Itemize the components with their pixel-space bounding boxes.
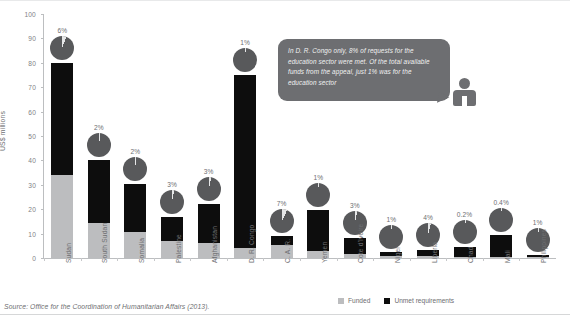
bar-segment-unmet <box>51 63 73 175</box>
bar-segment-unmet <box>88 160 110 222</box>
x-axis-label: D. R. Congo <box>248 225 255 263</box>
pie-wedge <box>160 190 184 214</box>
pie-marker <box>489 208 513 232</box>
person-icon <box>452 78 478 106</box>
legend-label: Funded <box>348 297 370 304</box>
y-tick-label: 80 <box>10 59 36 66</box>
y-tick-label: 70 <box>10 84 36 91</box>
bar-segment-unmet <box>234 75 256 248</box>
x-axis-label: Niger <box>394 246 401 263</box>
y-axis-label: US$ millions <box>0 111 6 151</box>
x-axis-label: Cote d'Ivoire <box>357 224 364 263</box>
chart-figure: US$ millions 0102030405060708090100 6%2%… <box>0 0 570 323</box>
x-axis-label: Afghanistan <box>211 226 218 263</box>
x-tick-mark <box>81 258 82 261</box>
person-arm-gap <box>462 96 467 106</box>
bar-column <box>124 14 146 258</box>
x-tick-mark <box>410 258 411 261</box>
pie-wedge <box>489 208 513 232</box>
x-axis-label: C. A. R. <box>284 239 291 263</box>
pie-percent-label: 2% <box>79 124 119 131</box>
x-tick-mark <box>227 258 228 261</box>
x-tick-mark <box>263 258 264 261</box>
y-tick-label: 50 <box>10 133 36 140</box>
y-tick-label: 60 <box>10 108 36 115</box>
x-tick-mark <box>483 258 484 261</box>
y-tick-label: 0 <box>10 255 36 262</box>
source-note: Source: Office for the Coordination of H… <box>4 303 210 310</box>
x-axis-label: Mali <box>504 250 511 263</box>
pie-percent-label: 3% <box>335 202 375 209</box>
pie-marker <box>160 190 184 214</box>
pie-percent-label: 1% <box>225 39 265 46</box>
pie-wedge <box>270 209 294 233</box>
x-axis-label: Philippines <box>540 229 547 263</box>
pie-marker <box>197 177 221 201</box>
bar-column <box>198 14 220 258</box>
chart-legend: FundedUnmet requirements <box>338 297 454 304</box>
x-tick-mark <box>337 258 338 261</box>
pie-percent-label: 1% <box>298 174 338 181</box>
x-axis-label: South Sudan <box>101 223 108 263</box>
pie-percent-label: 1% <box>371 216 411 223</box>
x-axis-label: Somalia <box>138 238 145 263</box>
pie-marker <box>233 48 257 72</box>
x-tick-mark <box>190 258 191 261</box>
x-tick-mark <box>300 258 301 261</box>
y-tick-label: 10 <box>10 230 36 237</box>
x-tick-mark <box>446 258 447 261</box>
person-head-icon <box>459 78 470 89</box>
pie-wedge <box>50 36 74 60</box>
x-axis-label: Palestine <box>175 234 182 263</box>
pie-percent-label: 3% <box>189 168 229 175</box>
top-divider <box>0 0 570 1</box>
pie-wedge <box>123 157 147 181</box>
legend-item: Funded <box>338 297 370 304</box>
callout-text: In D. R. Congo only, 8% of requests for … <box>288 46 440 88</box>
pie-marker <box>123 157 147 181</box>
pie-percent-label: 0.2% <box>445 211 485 218</box>
x-axis-label: Liberia <box>431 242 438 263</box>
y-tick-label: 100 <box>10 11 36 18</box>
pie-percent-label: 4% <box>408 214 448 221</box>
y-tick-label: 40 <box>10 157 36 164</box>
pie-marker <box>50 36 74 60</box>
x-axis-label: Sudan <box>65 243 72 263</box>
x-tick-mark <box>44 258 45 261</box>
pie-wedge <box>197 177 221 201</box>
pie-wedge <box>453 220 477 244</box>
callout-tail-icon <box>437 92 450 105</box>
legend-item: Unmet requirements <box>384 297 454 304</box>
legend-label: Unmet requirements <box>394 297 454 304</box>
y-tick-label: 30 <box>10 181 36 188</box>
pie-percent-label: 2% <box>115 148 155 155</box>
bar-segment-unmet <box>124 184 146 233</box>
pie-marker <box>270 209 294 233</box>
bottom-divider <box>0 314 570 315</box>
pie-percent-label: 7% <box>262 200 302 207</box>
x-tick-mark <box>373 258 374 261</box>
pie-percent-label: 0.4% <box>481 199 521 206</box>
pie-percent-label: 1% <box>518 219 558 226</box>
callout-bubble: In D. R. Congo only, 8% of requests for … <box>278 39 450 101</box>
y-tick-label: 90 <box>10 35 36 42</box>
x-axis-label: Yemen <box>321 242 328 263</box>
x-tick-mark <box>154 258 155 261</box>
legend-swatch <box>384 298 390 304</box>
y-tick-label: 20 <box>10 206 36 213</box>
x-tick-mark <box>519 258 520 261</box>
pie-percent-label: 6% <box>42 27 82 34</box>
bar-column <box>161 14 183 258</box>
pie-wedge <box>233 48 257 72</box>
x-axis-label: Chad <box>467 246 474 263</box>
x-tick-mark <box>117 258 118 261</box>
pie-percent-label: 3% <box>152 181 192 188</box>
legend-swatch <box>338 298 344 304</box>
pie-marker <box>453 220 477 244</box>
